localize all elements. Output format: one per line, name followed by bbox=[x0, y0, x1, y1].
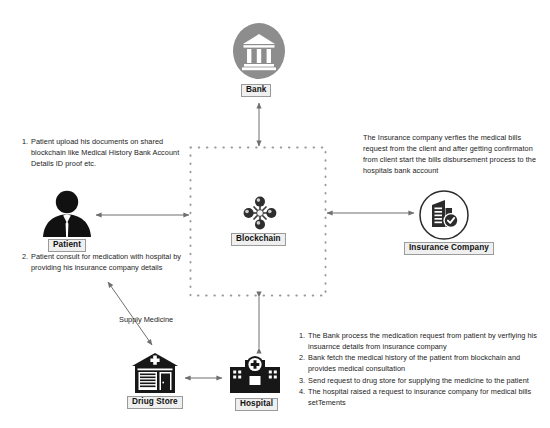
arrow-drugstore-patient bbox=[108, 282, 152, 345]
diagram-canvas: Bank Blockchain Patient bbox=[0, 0, 550, 428]
hospital-step-4-text: The hospital raised a request to insuran… bbox=[308, 387, 543, 409]
hospital-step-4: 4. The hospital raised a request to insu… bbox=[299, 387, 543, 409]
hospital-step-3: 3. Send request to drug store for supply… bbox=[299, 376, 543, 387]
hospital-step-1: 1. The Bank process the medication reque… bbox=[299, 331, 543, 353]
supply-medicine-label: Supply Medicine bbox=[119, 315, 173, 324]
patient-step-1-text: Patient upload his documents on shared b… bbox=[31, 137, 190, 170]
hospital-step-1-number: 1. bbox=[299, 331, 308, 353]
insurance-company-label: Insurance Company bbox=[404, 242, 494, 255]
bank-icon[interactable] bbox=[232, 22, 286, 80]
hospital-steps: 1. The Bank process the medication reque… bbox=[299, 331, 543, 410]
patient-icon[interactable] bbox=[40, 190, 94, 238]
hospital-step-2: 2. Bank fetch the medical history of the… bbox=[299, 353, 543, 375]
patient-label: Patient bbox=[48, 239, 86, 252]
hospital-step-2-text: Bank fetch the medical history of the pa… bbox=[308, 353, 543, 375]
hospital-step-3-text: Send request to drug store for supplying… bbox=[308, 376, 543, 387]
hospital-step-3-number: 3. bbox=[299, 376, 308, 387]
hospital-step-1-text: The Bank process the medication request … bbox=[308, 331, 543, 353]
hospital-step-2-number: 2. bbox=[299, 353, 308, 375]
patient-step-2: 2. Patient consult for medication with h… bbox=[22, 252, 182, 274]
patient-step-2-number: 2. bbox=[22, 252, 31, 274]
blockchain-icon[interactable] bbox=[241, 194, 279, 232]
hospital-icon[interactable] bbox=[228, 352, 282, 394]
patient-step-1-number: 1. bbox=[22, 137, 31, 170]
insurance-note: The Insurance company verfies the medica… bbox=[363, 133, 543, 177]
insurance-company-icon[interactable] bbox=[418, 189, 470, 241]
blockchain-label: Blockchain bbox=[231, 233, 286, 246]
drug-store-label: Driug Store bbox=[127, 396, 183, 409]
patient-step-1: 1. Patient upload his documents on share… bbox=[22, 137, 190, 170]
drug-store-icon[interactable] bbox=[129, 352, 181, 394]
hospital-step-4-number: 4. bbox=[299, 387, 308, 409]
patient-step-2-text: Patient consult for medication with hosp… bbox=[31, 252, 182, 274]
hospital-label: Hospital bbox=[235, 398, 278, 411]
bank-label: Bank bbox=[241, 84, 271, 97]
